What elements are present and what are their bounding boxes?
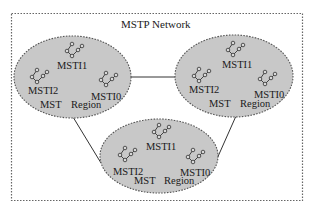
region-label-mst: MST [134, 175, 156, 186]
link-left-bottom [73, 117, 101, 163]
region-label-region: Region [71, 99, 102, 110]
instance-label: MSTI2 [189, 84, 219, 95]
link-right-bottom [216, 116, 236, 161]
region-label-region: Region [164, 175, 195, 186]
instance-label: MSTI2 [28, 85, 58, 96]
mstp-network-diagram: MSTP Network MSTI1 MSTI2 MSTI0 MST Regio… [0, 0, 310, 212]
mst-region-right[interactable]: MSTI1 MSTI2 MSTI0 MST Region [175, 35, 293, 117]
network-title: MSTP Network [121, 18, 191, 30]
region-label-region: Region [240, 98, 271, 109]
region-label-mst: MST [209, 98, 231, 109]
instance-label: MSTI1 [146, 141, 176, 152]
mst-region-left[interactable]: MSTI1 MSTI2 MSTI0 MST Region [14, 36, 131, 118]
mst-region-bottom[interactable]: MSTI1 MSTI2 MSTI0 MST Region [100, 119, 218, 193]
instance-label: MSTI1 [57, 60, 87, 71]
region-label-mst: MST [40, 99, 62, 110]
instance-label: MSTI1 [222, 59, 252, 70]
